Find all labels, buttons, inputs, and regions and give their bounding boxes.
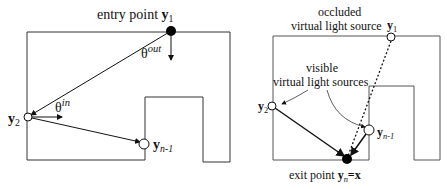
exit-point-label: exit point yn=x [289,169,361,184]
right-yn1-label: yn-1 [377,126,394,141]
yn1-marker [139,139,149,149]
right-y2-marker [268,102,276,110]
right-yn1-marker [364,125,374,135]
right-room-outline [273,36,440,160]
exit-point-marker [342,154,352,164]
theta-in-label: θin [55,98,70,115]
y2-marker [24,113,32,121]
right-y2-label: y2 [258,100,268,115]
occluded-label-line1: occluded [318,6,361,18]
left-room-outline [27,32,230,162]
entry-point-label: entry point y1 [97,8,173,24]
y2-label: y2 [8,112,20,128]
visible-label-line2: virtual light sources [273,76,368,88]
occluded-label-line2: virtual light source [291,20,382,32]
yn1-label: yn-1 [153,138,173,154]
theta-out-label: θout [141,44,161,61]
right-y1-label: y1 [387,19,397,34]
visible-label-line1: visible [306,62,338,74]
